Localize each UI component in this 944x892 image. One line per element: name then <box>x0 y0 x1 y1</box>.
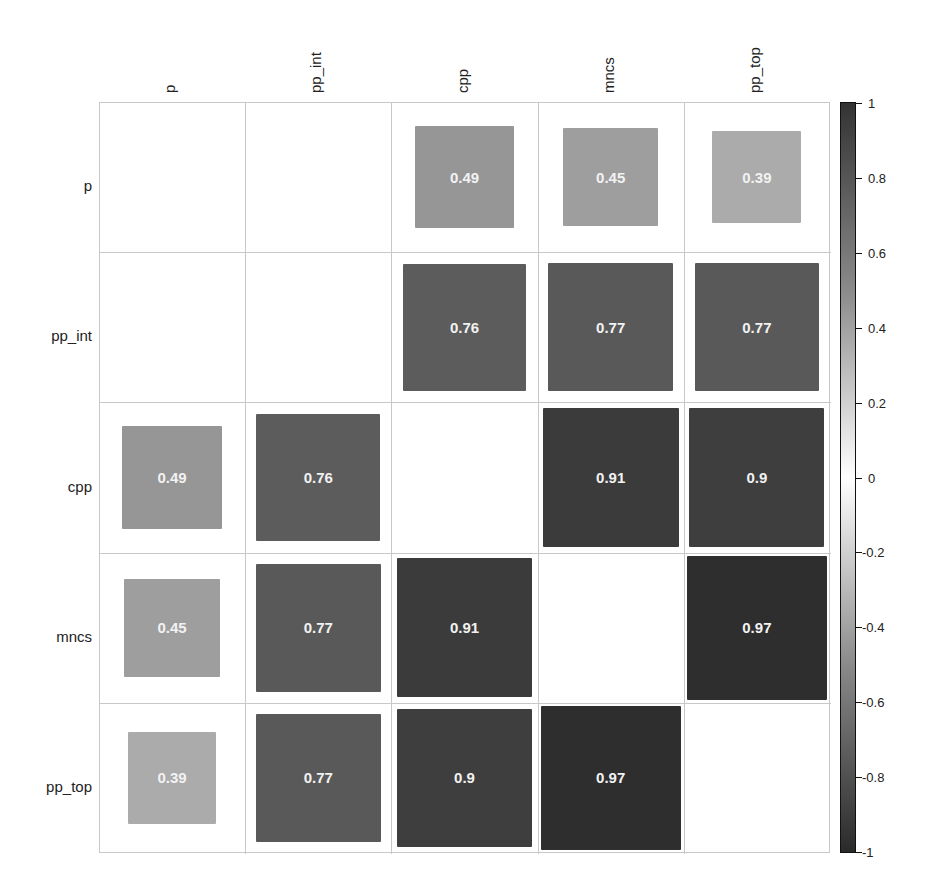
correlation-square: 0.91 <box>543 408 679 547</box>
colorbar-tick <box>856 103 862 104</box>
matrix-cell: 0.45 <box>100 554 246 704</box>
colorbar-tick-label: -0.8 <box>862 770 884 785</box>
column-label: cpp <box>454 69 471 93</box>
column-label: mncs <box>600 57 617 93</box>
correlation-square: 0.39 <box>712 131 801 222</box>
column-label: pp_top <box>746 47 763 93</box>
correlation-square: 0.97 <box>541 706 681 850</box>
correlation-square: 0.91 <box>397 558 533 697</box>
colorbar-tick <box>856 328 862 329</box>
row-label: pp_top <box>46 777 92 794</box>
matrix-cell: 0.97 <box>685 554 831 704</box>
correlation-grid: 0.490.450.390.760.770.770.490.760.910.90… <box>99 102 830 853</box>
correlation-square: 0.9 <box>397 709 532 848</box>
matrix-cell <box>392 403 538 553</box>
matrix-cell: 0.77 <box>246 554 392 704</box>
matrix-cell: 0.45 <box>539 103 685 253</box>
matrix-cell: 0.97 <box>539 704 685 854</box>
matrix-cell: 0.9 <box>392 704 538 854</box>
correlation-square: 0.45 <box>124 579 219 677</box>
correlation-square: 0.77 <box>548 263 673 391</box>
colorbar-tick-label: 0 <box>868 470 875 485</box>
matrix-cell <box>685 704 831 854</box>
correlation-square: 0.39 <box>128 732 217 823</box>
correlation-square: 0.45 <box>563 128 658 226</box>
colorbar-tick-label: 0.4 <box>868 320 886 335</box>
row-label: p <box>84 177 92 194</box>
matrix-cell: 0.39 <box>100 704 246 854</box>
correlation-square: 0.49 <box>122 426 222 528</box>
colorbar-tick-label: 0.8 <box>868 170 886 185</box>
colorbar-tick <box>856 253 862 254</box>
correlation-square: 0.77 <box>695 263 820 391</box>
row-label: mncs <box>56 627 92 644</box>
correlation-square: 0.77 <box>256 714 381 842</box>
correlation-square: 0.76 <box>256 414 380 541</box>
colorbar-tick-label: 0.2 <box>868 395 886 410</box>
matrix-cell: 0.91 <box>539 403 685 553</box>
matrix-cell: 0.76 <box>246 403 392 553</box>
correlation-square: 0.49 <box>415 126 515 228</box>
colorbar-tick <box>856 178 862 179</box>
column-label: p <box>161 85 178 93</box>
row-label: pp_int <box>51 327 92 344</box>
matrix-cell: 0.91 <box>392 554 538 704</box>
colorbar-tick <box>856 403 862 404</box>
row-label: cpp <box>68 477 92 494</box>
correlation-square: 0.9 <box>689 408 824 547</box>
correlation-square: 0.77 <box>256 564 381 692</box>
matrix-cell: 0.9 <box>685 403 831 553</box>
correlation-square: 0.76 <box>403 264 527 391</box>
matrix-cell: 0.49 <box>100 403 246 553</box>
matrix-cell: 0.77 <box>685 253 831 403</box>
colorbar-tick-label: -0.2 <box>862 545 884 560</box>
matrix-cell: 0.76 <box>392 253 538 403</box>
colorbar-tick-label: 1 <box>868 96 875 111</box>
column-label: pp_int <box>307 52 324 93</box>
matrix-cell: 0.77 <box>246 704 392 854</box>
matrix-cell: 0.77 <box>539 253 685 403</box>
correlation-matrix-chart: 0.490.450.390.760.770.770.490.760.910.90… <box>0 0 944 892</box>
colorbar-tick-label: -0.6 <box>862 695 884 710</box>
matrix-cell <box>246 253 392 403</box>
matrix-cell <box>539 554 685 704</box>
correlation-square: 0.97 <box>687 556 827 700</box>
colorbar-tick-label: -0.4 <box>862 620 884 635</box>
matrix-cell: 0.49 <box>392 103 538 253</box>
matrix-cell <box>246 103 392 253</box>
matrix-cell: 0.39 <box>685 103 831 253</box>
matrix-cell <box>100 103 246 253</box>
colorbar-tick-label: 0.6 <box>868 245 886 260</box>
colorbar <box>840 102 856 853</box>
colorbar-tick-label: -1 <box>862 845 874 860</box>
colorbar-tick <box>856 478 862 479</box>
matrix-cell <box>100 253 246 403</box>
